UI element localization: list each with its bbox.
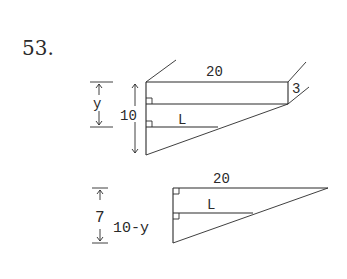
offset-3-label: 3 [292, 81, 300, 97]
segment-L-label: L [178, 112, 186, 128]
height-10-label: 10 [120, 108, 137, 124]
diagram-canvas: y 10 20 3 L 7 10-y 20 L [0, 0, 347, 279]
right-angle-marker-icon [146, 98, 152, 104]
ten-minus-y-label: 10-y [113, 220, 149, 237]
bottom-diagonal-hypotenuse [173, 188, 328, 243]
right-angle-marker-icon [173, 213, 179, 219]
right-angle-marker-icon [173, 188, 179, 194]
right-angle-marker-icon [146, 121, 152, 127]
bottom-segment-L-label: L [207, 197, 215, 213]
height-7-label: 7 [95, 209, 105, 227]
bottom-length-20-label: 20 [213, 171, 230, 187]
top-right-slant-line [288, 62, 306, 82]
top-left-slant-line [146, 60, 176, 82]
top-diagonal-hypotenuse [146, 104, 288, 155]
top-length-20-label: 20 [206, 64, 223, 80]
top-figure: y 10 20 3 L [90, 60, 309, 155]
y-label: y [93, 96, 101, 112]
bottom-figure: 7 10-y 20 L [92, 171, 328, 243]
